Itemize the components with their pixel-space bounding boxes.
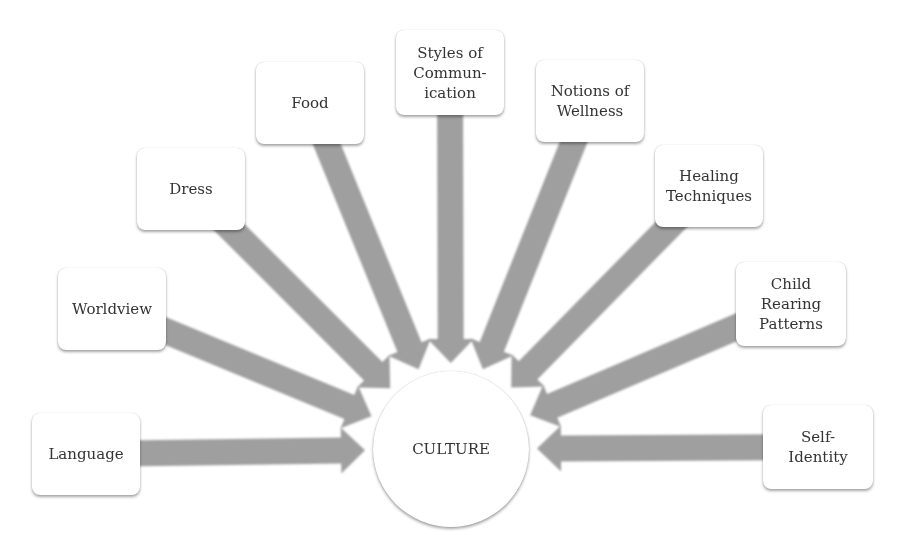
node-self-identity: Self- Identity [763,405,873,489]
center-label: CULTURE [412,440,490,458]
node-worldview: Worldview [58,268,166,350]
arrow-styles-of-communication-to-culture [428,111,474,363]
node-healing-techniques: Healing Techniques [655,145,763,227]
node-notions-of-wellness: Notions of Wellness [536,60,644,142]
arrow-self-identity-to-culture [537,425,780,471]
center-culture-circle: CULTURE [373,371,529,527]
culture-diagram: Language Worldview Dress Food Styles of … [0,0,904,544]
node-language: Language [32,413,140,495]
node-styles-of-communication: Styles of Commun- ication [396,30,504,115]
arrow-language-to-culture [123,428,365,474]
node-dress: Dress [137,148,245,230]
node-child-rearing-patterns: Child Rearing Patterns [736,262,846,346]
node-food: Food [256,62,364,144]
